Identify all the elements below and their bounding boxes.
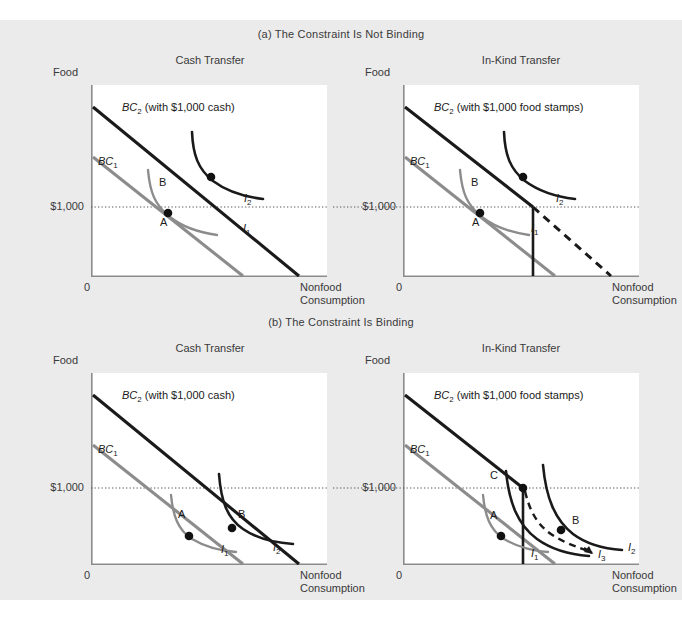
point-b-marker <box>557 526 566 535</box>
bc2-label-post: (with $1,000 cash) <box>142 101 235 113</box>
panel-a-cash-bc1-label: BC1 <box>98 155 118 170</box>
panel-b-inkind-point-c-label: C <box>490 469 498 481</box>
bc2-label-pre: BC <box>434 101 449 113</box>
x-axis-title-line2: Consumption <box>300 294 365 306</box>
point-a-marker <box>185 532 194 541</box>
ic1-label-sub: 1 <box>534 228 538 237</box>
panel-b-inkind-bc1-label: BC1 <box>410 443 430 458</box>
ic2-curve-upper <box>543 465 622 550</box>
ic1-label-sub: 1 <box>534 553 538 562</box>
ic2-label-sub: 2 <box>631 547 635 556</box>
ic2-curve <box>504 132 575 199</box>
panel-a-inkind-ic2-label: I2 <box>556 192 564 207</box>
point-a-marker <box>497 532 506 541</box>
bc2-label-post: (with $1,000 food stamps) <box>454 101 584 113</box>
ic2-curve <box>192 132 263 199</box>
panel-b-cash-ic2-label: I2 <box>273 541 281 556</box>
bc1-label-pre: BC <box>410 443 425 455</box>
panel-a-inkind-bc1-label: BC1 <box>410 155 430 170</box>
x-axis-title-line1: Nonfood <box>300 281 342 293</box>
bc2-line-dashed-unattainable <box>533 207 611 276</box>
panel-b-inkind-x-axis-title: Nonfood Consumption <box>612 569 677 595</box>
ic2-label-sub: 2 <box>559 198 563 207</box>
section-a-title: (a) The Constraint Is Not Binding <box>0 28 682 40</box>
panel-b-inkind-point-a-label: A <box>490 509 497 521</box>
panel-b-inkind-point-b-label: B <box>572 514 579 526</box>
panel-b-inkind-ic1-label: I1 <box>531 547 539 562</box>
panel-a-inkind-origin-label: 0 <box>396 281 402 293</box>
section-b-title: (b) The Constraint Is Binding <box>0 316 682 328</box>
point-c-marker <box>519 484 528 493</box>
panel-b-inkind-ic2-label: I2 <box>628 541 636 556</box>
x-axis-title-line1: Nonfood <box>300 569 342 581</box>
point-b-marker <box>519 173 528 182</box>
x-axis-title-line2: Consumption <box>612 294 677 306</box>
point-b-marker <box>207 173 216 182</box>
ic1-label-sub: 1 <box>224 549 228 558</box>
ic1-label-sub: 1 <box>246 228 250 237</box>
panel-a-cash-point-b-label: B <box>159 176 166 188</box>
panel-a-inkind-point-a-label: A <box>472 216 479 228</box>
x-axis-title-line1: Nonfood <box>612 569 654 581</box>
panel-b-inkind-ic3-label: I3 <box>598 548 606 563</box>
x-axis-title-line2: Consumption <box>612 582 677 594</box>
ic1-curve <box>483 495 548 552</box>
panel-a-cash-origin-label: 0 <box>84 281 90 293</box>
ic2-label-sub: 2 <box>276 547 280 556</box>
panel-a-cash-x-axis-title: Nonfood Consumption <box>300 281 365 307</box>
bc2-label-pre: BC <box>122 389 137 401</box>
ic3-label-sub: 3 <box>601 554 605 563</box>
panel-b-cash-bc1-label: BC1 <box>98 443 118 458</box>
bc1-label-sub: 1 <box>113 449 117 458</box>
bc1-label-pre: BC <box>410 155 425 167</box>
x-axis-title-line1: Nonfood <box>612 281 654 293</box>
panel-b-inkind-bc2-label: BC2 (with $1,000 food stamps) <box>434 389 583 404</box>
panel-b-cash-y-axis-title: Food <box>53 354 78 366</box>
x-axis-title-line2: Consumption <box>300 582 365 594</box>
bc2-label-post: (with $1,000 cash) <box>142 389 235 401</box>
bc1-label-pre: BC <box>98 155 113 167</box>
panel-b-cash-origin-label: 0 <box>84 569 90 581</box>
bc1-label-sub: 1 <box>113 161 117 170</box>
figure-page: (a) The Constraint Is Not Binding Cash T… <box>0 0 682 621</box>
panel-a-inkind-title: In-Kind Transfer <box>403 54 639 66</box>
panel-b-inkind-tick-1000: $1,000 <box>334 481 396 493</box>
panel-b-inkind-title: In-Kind Transfer <box>403 342 639 354</box>
panel-a-cash-tick-1000: $1,000 <box>22 200 84 212</box>
bc1-label-sub: 1 <box>425 449 429 458</box>
panel-b-cash-point-a-label: A <box>178 508 185 520</box>
bc1-label-sub: 1 <box>425 161 429 170</box>
bc2-label-post: (with $1,000 food stamps) <box>454 389 584 401</box>
bc2-label-pre: BC <box>434 389 449 401</box>
panel-b-cash-point-b-label: B <box>238 508 245 520</box>
panel-a-cash-ic2-label: I2 <box>244 192 252 207</box>
panel-b-cash-ic1-label: I1 <box>221 543 229 558</box>
point-b-marker <box>228 524 237 533</box>
bc1-label-pre: BC <box>98 443 113 455</box>
panel-a-inkind-bc2-label: BC2 (with $1,000 food stamps) <box>434 101 583 116</box>
panel-a-cash-y-axis-title: Food <box>53 66 78 78</box>
panel-a-inkind-x-axis-title: Nonfood Consumption <box>612 281 677 307</box>
bc2-label-pre: BC <box>122 101 137 113</box>
bc2-line <box>93 107 299 276</box>
panel-a-inkind-y-axis-title: Food <box>365 66 390 78</box>
panel-b-cash-x-axis-title: Nonfood Consumption <box>300 569 365 595</box>
panel-a-cash-point-a-label: A <box>160 216 167 228</box>
panel-b-cash-tick-1000: $1,000 <box>22 481 84 493</box>
panel-b-cash-bc2-label: BC2 (with $1,000 cash) <box>122 389 235 404</box>
ic2-label-sub: 2 <box>247 198 251 207</box>
panel-a-inkind-point-b-label: B <box>471 176 478 188</box>
panel-b-inkind-y-axis-title: Food <box>365 354 390 366</box>
panel-b-cash-title: Cash Transfer <box>92 342 328 354</box>
panel-a-cash-bc2-label: BC2 (with $1,000 cash) <box>122 101 235 116</box>
panel-b-inkind-origin-label: 0 <box>396 569 402 581</box>
bc2-line <box>93 395 299 564</box>
panel-a-inkind-ic1-label: I1 <box>531 222 539 237</box>
panel-a-cash-title: Cash Transfer <box>92 54 328 66</box>
panel-a-inkind-tick-1000: $1,000 <box>334 200 396 212</box>
panel-a-cash-ic1-label: I1 <box>243 222 251 237</box>
